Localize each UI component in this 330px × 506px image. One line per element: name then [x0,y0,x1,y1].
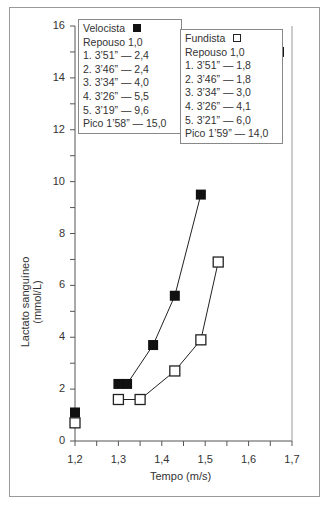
open-square-marker [196,335,206,345]
x-tick-label: 1,4 [147,453,177,465]
legend-line: 5. 3’21” — 6,0 [185,114,278,128]
legend-title: Fundista [185,32,225,44]
y-tick-label: 0 [45,434,65,446]
x-axis-label: Tempo (m/s) [150,470,211,482]
y-tick-label: 6 [45,278,65,290]
legend-line: 5. 3’19” — 9,6 [83,104,177,118]
y-tick-label: 12 [45,123,65,135]
legend-line: Pico 1’58” — 15,0 [83,117,177,131]
x-tick-label: 1,5 [190,453,220,465]
series-line-fundista [118,262,218,399]
filled-square-icon [133,24,141,32]
legend-velocista: Velocista Repouso 1,0 1. 3’51” — 2,4 2. … [78,19,182,134]
open-square-marker [113,395,123,405]
y-tick-label: 2 [45,382,65,394]
x-tick-label: 1,6 [234,453,264,465]
legend-title: Velocista [83,22,125,34]
legend-line: 1. 3’51” — 2,4 [83,49,177,63]
y-tick-label: 4 [45,330,65,342]
y-tick-label: 14 [45,71,65,83]
y-tick-label: 8 [45,227,65,239]
x-tick-label: 1,3 [103,453,133,465]
legend-line: 3. 3’34” — 4,0 [83,76,177,90]
y-tick-label: 10 [45,175,65,187]
open-square-marker [213,257,223,267]
series-line-velocista [118,195,200,384]
legend-line: 2. 3’46” — 2,4 [83,63,177,77]
filled-square-marker [148,340,158,350]
open-square-marker [135,395,145,405]
open-square-icon [233,34,241,42]
x-tick-label: 1,2 [60,453,90,465]
y-tick-label: 16 [45,19,65,31]
legend-line: 3. 3’34” — 3,0 [185,86,278,100]
open-square-marker [70,418,80,428]
legend-line: Repouso 1,0 [83,36,177,50]
x-tick-label: 1,7 [277,453,307,465]
filled-square-marker [122,379,132,389]
legend-line: Repouso 1,0 [185,46,278,60]
filled-square-marker [170,291,180,301]
legend-line: 2. 3’46” — 1,8 [185,73,278,87]
legend-fundista: Fundista Repouso 1,0 1. 3’51” — 1,8 2. 3… [180,29,283,144]
filled-square-marker [70,407,80,417]
legend-line: 1. 3’51” — 1,8 [185,59,278,73]
filled-square-marker [196,190,206,200]
legend-line: Pico 1’59” — 14,0 [185,127,278,141]
legend-line: 4. 3’26” — 4,1 [185,100,278,114]
y-axis-label: Lactato sanguíneo (mmol/L) [19,237,43,367]
filled-square-marker [113,379,123,389]
open-square-marker [170,366,180,376]
legend-line: 4. 3’26” — 5,5 [83,90,177,104]
